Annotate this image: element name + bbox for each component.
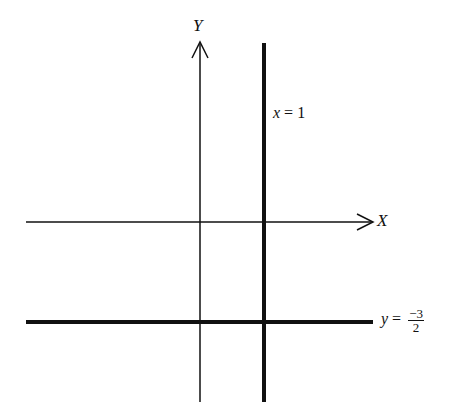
- label-x-var: x: [273, 104, 280, 121]
- label-x-value: 1: [297, 104, 305, 121]
- label-y-var: y: [381, 310, 388, 327]
- label-y-equals-sign: =: [392, 310, 401, 327]
- coordinate-plane: [0, 0, 456, 414]
- label-y-equals-neg-three-halves: y = −3 2: [381, 307, 424, 334]
- fraction-denominator: 2: [408, 321, 424, 334]
- y-axis-label: Y: [193, 16, 202, 36]
- fraction: −3 2: [408, 307, 424, 334]
- x-axis-label: X: [377, 211, 387, 231]
- label-x-equals-1: x = 1: [273, 104, 305, 122]
- fraction-numerator: −3: [408, 307, 424, 321]
- label-x-equals-sign: =: [284, 104, 293, 121]
